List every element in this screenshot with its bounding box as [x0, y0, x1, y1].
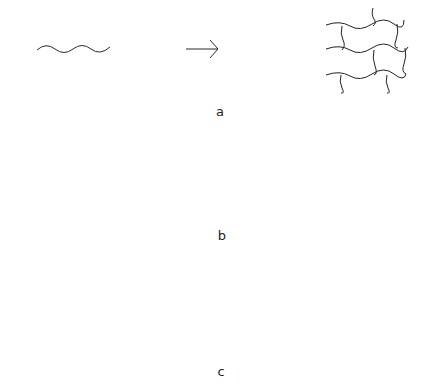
row-a-linear-chain: [37, 46, 110, 53]
row-a-network: [326, 8, 408, 93]
row-c-label: c: [217, 364, 224, 379]
row-b-label: b: [218, 228, 226, 243]
diagram-canvas: [0, 0, 442, 386]
row-a-label: a: [216, 104, 224, 119]
row-a-arrow-icon: [186, 40, 218, 58]
